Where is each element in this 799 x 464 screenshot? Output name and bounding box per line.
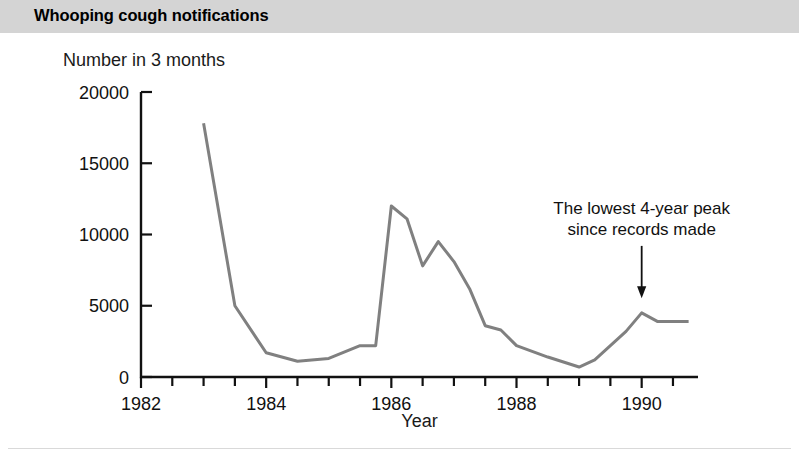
annotation-line: The lowest 4-year peak [553,199,730,218]
data-series-group [204,123,689,367]
footer-divider [8,448,791,449]
y-tick-label: 5000 [89,296,129,316]
y-tick-label: 0 [119,368,129,388]
annotation-group: The lowest 4-year peaksince records made [553,199,730,298]
annotation-line: since records made [568,220,716,239]
y-tick-label: 15000 [79,154,129,174]
data-line [204,123,689,367]
x-axis-label: Year [0,411,799,432]
annotation-arrow-head [637,286,646,298]
x-axis-label-text: Year [401,411,437,431]
y-tick-label: 20000 [79,83,129,103]
y-tick-label: 10000 [79,225,129,245]
x-tick-group: 19821984198619881990 [121,377,673,414]
chart-figure: Whooping cough notifications Number in 3… [0,0,799,464]
line-chart-plot: 05000100001500020000 1982198419861988199… [0,0,799,464]
